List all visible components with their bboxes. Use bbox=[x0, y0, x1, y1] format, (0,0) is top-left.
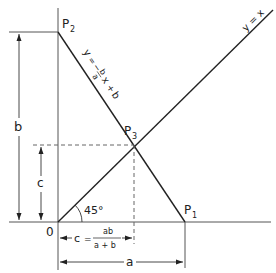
svg-text:P: P bbox=[62, 17, 69, 31]
svg-text:ab: ab bbox=[103, 227, 113, 236]
diagram-svg: 0 P 1 P 2 P 3 45° y = x y = − b a x + b … bbox=[0, 0, 276, 273]
c-dimension-label: c bbox=[37, 176, 44, 190]
diagram-canvas: 0 P 1 P 2 P 3 45° y = x y = − b a x + b … bbox=[0, 0, 276, 273]
svg-text:a: a bbox=[90, 72, 100, 81]
p2-label: P 2 bbox=[62, 17, 75, 34]
p3-label: P 3 bbox=[124, 124, 137, 141]
svg-text:P: P bbox=[184, 203, 191, 217]
p1-label: P 1 bbox=[184, 203, 197, 220]
a-dimension-label: a bbox=[126, 255, 133, 269]
svg-text:1: 1 bbox=[192, 211, 197, 220]
b-dimension-label: b bbox=[14, 119, 22, 134]
line-descending bbox=[58, 32, 185, 222]
c-formula: c = ab a + b bbox=[74, 227, 121, 250]
line-y-equals-x bbox=[58, 10, 273, 222]
svg-text:2: 2 bbox=[70, 25, 75, 34]
svg-text:P: P bbox=[124, 124, 131, 138]
angle-arc bbox=[75, 205, 82, 222]
svg-text:3: 3 bbox=[132, 132, 137, 141]
origin-label: 0 bbox=[46, 225, 54, 239]
svg-text:c: c bbox=[74, 232, 80, 245]
angle-label: 45° bbox=[84, 204, 104, 217]
svg-text:=: = bbox=[84, 234, 92, 244]
svg-text:a + b: a + b bbox=[94, 241, 116, 250]
